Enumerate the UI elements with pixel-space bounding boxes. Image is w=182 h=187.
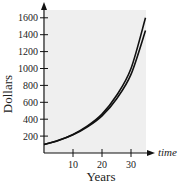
y-tick-label: 400	[23, 114, 38, 125]
plot-panel	[45, 10, 146, 153]
y-tick-label: 1000	[18, 63, 38, 74]
x-axis-title: Years	[86, 169, 115, 184]
x-axis-arrow-icon	[147, 150, 155, 156]
time-label: time	[158, 146, 177, 158]
x-tick-label: 10	[68, 159, 78, 170]
line-chart: 2004006008001000120014001600 102030 time…	[0, 0, 182, 187]
y-tick-label: 600	[23, 97, 38, 108]
y-axis-arrow-icon	[41, 2, 47, 10]
y-tick-label: 1200	[18, 46, 38, 57]
y-tick-label: 800	[23, 80, 38, 91]
y-tick-label: 200	[23, 131, 38, 142]
y-tick-label: 1400	[18, 29, 38, 40]
y-tick-label: 1600	[18, 12, 38, 23]
y-axis-title: Dollars	[0, 75, 15, 113]
x-tick-label: 30	[126, 159, 136, 170]
